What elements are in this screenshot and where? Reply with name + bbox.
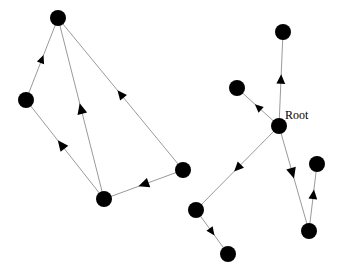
node-l3 — [96, 191, 112, 207]
node-l1 — [50, 10, 66, 26]
edge-Root-R_low — [279, 126, 309, 231]
node-r_bot — [220, 246, 236, 262]
edges-layer — [26, 18, 317, 254]
arrowhead-icon — [206, 226, 214, 235]
root-label: Root — [285, 108, 309, 122]
arrowhead-icon — [138, 178, 150, 187]
node-r_low — [301, 223, 317, 239]
edge-L3-L2 — [26, 100, 104, 199]
node-l4 — [175, 162, 191, 178]
node-r_top — [275, 24, 291, 40]
graph-diagram: Root — [0, 0, 345, 272]
node-r_mid — [188, 202, 204, 218]
node-l2 — [18, 92, 34, 108]
arrows-layer — [37, 55, 317, 235]
node-r_left — [229, 80, 245, 96]
arrowhead-icon — [276, 74, 285, 84]
labels-layer: Root — [285, 108, 309, 122]
arrowhead-icon — [286, 167, 296, 179]
nodes-layer — [18, 10, 325, 262]
arrowhead-icon — [58, 140, 69, 152]
arrowhead-icon — [117, 90, 126, 100]
arrowhead-icon — [308, 189, 317, 199]
arrowhead-icon — [78, 103, 88, 115]
node-r_far — [309, 156, 325, 172]
